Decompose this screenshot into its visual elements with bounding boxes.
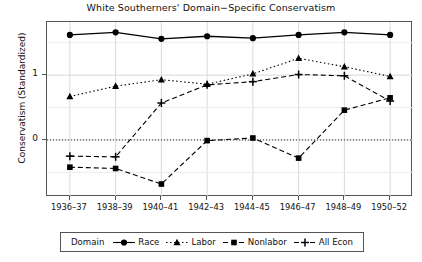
legend-entry-race[interactable]: Race: [113, 237, 159, 248]
data-point: [158, 36, 164, 42]
chart-title: White Southerners' Domain−Specific Conse…: [0, 2, 422, 13]
x-tick-mark: [343, 196, 344, 200]
data-point: [67, 164, 73, 170]
data-point: [204, 138, 210, 144]
legend-entry-all-econ[interactable]: All Econ: [294, 237, 353, 248]
data-point: [296, 155, 302, 161]
data-point: [66, 93, 73, 100]
legend-entry-nonlabor[interactable]: Nonlabor: [223, 237, 287, 248]
y-tick-label: 0: [18, 133, 38, 143]
data-point: [250, 135, 256, 141]
data-point: [203, 81, 211, 89]
data-point: [342, 107, 348, 113]
legend-key-square-icon: [223, 237, 245, 248]
x-tick-mark: [69, 196, 70, 200]
data-point: [113, 166, 119, 172]
x-tick-label: 1944–45: [229, 202, 275, 212]
plot-area: [46, 21, 412, 196]
data-point: [250, 35, 256, 41]
x-tick-mark: [389, 196, 390, 200]
data-point: [341, 63, 348, 70]
y-tick-mark: [42, 139, 46, 140]
x-tick-mark: [115, 196, 116, 200]
x-tick-label: 1938–39: [92, 202, 138, 212]
legend-key-triangle-icon: [166, 237, 188, 248]
series-line: [70, 58, 390, 96]
x-tick-mark: [298, 196, 299, 200]
y-tick-label: 1: [18, 68, 38, 78]
legend-key-plus-icon: [294, 237, 316, 248]
legend-key-circle-icon: [113, 237, 135, 248]
data-point: [66, 152, 74, 160]
data-point: [159, 181, 165, 187]
data-point: [295, 54, 302, 61]
data-point: [158, 76, 165, 83]
data-point: [341, 29, 347, 35]
x-tick-label: 1940–41: [137, 202, 183, 212]
data-point: [296, 32, 302, 38]
chart-legend: Domain RaceLaborNonlaborAll Econ: [60, 232, 364, 252]
x-tick-label: 1946–47: [275, 202, 321, 212]
data-point: [249, 78, 257, 86]
y-axis-label: Conservatism (Standardized): [17, 8, 27, 188]
legend-label: Nonlabor: [248, 237, 287, 247]
plot-svg: [47, 22, 413, 197]
x-tick-label: 1948–49: [320, 202, 366, 212]
y-tick-mark: [42, 74, 46, 75]
legend-label: All Econ: [319, 237, 353, 247]
x-tick-mark: [252, 196, 253, 200]
x-tick-mark: [206, 196, 207, 200]
legend-label: Labor: [191, 237, 215, 247]
data-point: [387, 32, 393, 38]
legend-entry-labor[interactable]: Labor: [166, 237, 215, 248]
chart-figure: White Southerners' Domain−Specific Conse…: [0, 0, 422, 262]
x-tick-label: 1950–52: [366, 202, 412, 212]
legend-title: Domain: [71, 237, 104, 247]
x-tick-label: 1942–43: [183, 202, 229, 212]
legend-label: Race: [138, 237, 159, 247]
data-point: [340, 72, 348, 80]
data-point: [67, 32, 73, 38]
data-point: [204, 33, 210, 39]
data-point: [113, 29, 119, 35]
data-point: [295, 71, 303, 79]
x-tick-mark: [160, 196, 161, 200]
x-tick-label: 1936–37: [46, 202, 92, 212]
